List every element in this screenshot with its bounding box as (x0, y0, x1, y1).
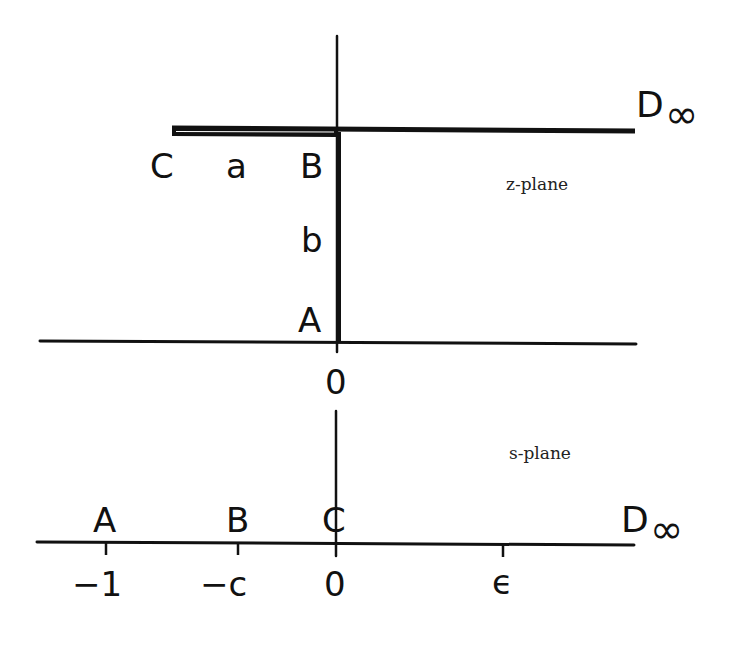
z-plane-title: z-plane (506, 174, 568, 194)
s-point-b-label: B (226, 500, 249, 540)
s-plane-title: s-plane (509, 443, 571, 463)
z-point-d-label: D (636, 84, 664, 125)
s-point-d-label: D (621, 499, 649, 540)
s-point-c-label: C (322, 500, 346, 540)
z-plane: C a B b A 0 D ∞ z-plane (40, 36, 698, 402)
z-point-c-label: C (150, 146, 174, 186)
z-point-b-label: B (300, 146, 323, 186)
s-tick-label-minus-c: −c (200, 564, 247, 604)
s-tick-label-zero: 0 (324, 564, 346, 604)
z-infinity-subscript: ∞ (665, 91, 698, 137)
z-slit-gap (176, 132, 334, 133)
s-real-axis (37, 542, 634, 545)
s-point-a-label: A (93, 500, 116, 540)
z-segment-a-label: a (226, 146, 247, 186)
conformal-map-diagram: C a B b A 0 D ∞ z-plane A B C D ∞ −1 −c … (0, 0, 734, 645)
s-infinity-subscript: ∞ (650, 506, 683, 552)
s-tick-label-minus-one: −1 (72, 564, 122, 604)
z-point-a-label: A (298, 300, 321, 340)
s-tick-label-epsilon: ϵ (492, 562, 513, 602)
z-origin-label: 0 (325, 362, 347, 402)
s-plane: A B C D ∞ −1 −c 0 ϵ s-plane (37, 411, 683, 604)
z-segment-b-label: b (301, 220, 323, 260)
